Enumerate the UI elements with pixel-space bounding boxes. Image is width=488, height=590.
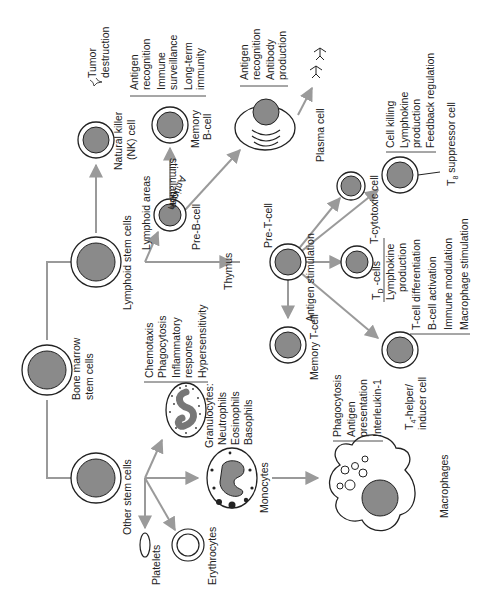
- label-pre-t: Pre-T-cell: [262, 203, 274, 248]
- label-monocytes: Monocytes: [258, 462, 270, 513]
- platelet-cell: [140, 533, 150, 557]
- label-t4-2: inducer cell: [416, 377, 428, 430]
- fn-memb-2: recognition: [140, 38, 152, 90]
- label-nk-1: Natural killer: [112, 111, 124, 170]
- label-bone-marrow-2: stem cells: [83, 353, 95, 400]
- fn-memb-4: surveillance: [167, 34, 179, 90]
- fn-plasma-2: recognition: [250, 28, 262, 80]
- fn-plasma-4: production: [276, 31, 288, 80]
- macrophage-cell: [330, 435, 415, 531]
- fn-mac-2: Antigen: [345, 401, 357, 437]
- lymphoid-stem-cell: [71, 237, 121, 287]
- t-cytotoxic-cell: [337, 172, 365, 200]
- fn-nk-2: destruction: [99, 26, 111, 78]
- fn-memb-1: Antigen: [128, 54, 140, 90]
- arrow-to-antibodies: [298, 88, 312, 115]
- label-bone-marrow: Bone marrow: [70, 337, 82, 400]
- fn-gran-1: Chemotaxis: [143, 323, 155, 378]
- fn-memb-3: Immune: [155, 52, 167, 90]
- lineage-diagram: Bone marrow stem cells Lymphoid stem cel…: [0, 0, 488, 590]
- fn-gran-4: response: [182, 335, 194, 378]
- antibody-icons: [310, 48, 326, 78]
- label-t-cytotoxic: T-cytotoxic cell: [368, 175, 380, 244]
- fn-t4-4: Macrophage stimulation: [458, 218, 470, 330]
- label-memory-b-2: B-cell: [201, 114, 213, 140]
- fn-memb-5: Long-term: [182, 42, 194, 90]
- nk-cell: [78, 122, 114, 158]
- label-platelets: Platelets: [150, 545, 162, 585]
- label-pre-b: Pre-B-cell: [190, 204, 202, 250]
- label-memory-t: Memory T-cell: [308, 314, 320, 380]
- fn-t4-2: B-cell activation: [426, 256, 438, 330]
- fn-cyto-3: production: [410, 99, 422, 148]
- arrow-to-plasma: [185, 150, 240, 210]
- label-lymphoid-areas: Lymphoid areas: [140, 176, 152, 250]
- arrow-to-granulocyte: [145, 440, 162, 478]
- label-granulocytes: Granulocytes:: [203, 383, 215, 448]
- plasma-cell: [235, 99, 295, 150]
- fn-gran-5: Hypersensitivity: [196, 304, 208, 378]
- label-memory-b-1: Memory: [189, 109, 201, 148]
- label-macrophages: Macrophages: [438, 454, 450, 518]
- fn-mac-4: Interleukin-1: [371, 379, 383, 437]
- arrow-to-erythrocytes: [145, 478, 175, 530]
- t4-cell: [382, 332, 418, 368]
- label-basophils: Basophils: [242, 399, 254, 445]
- bone-marrow-cell: [22, 345, 72, 395]
- label-td-cells: TD -cells: [370, 261, 384, 300]
- label-eosinophils: Eosinophils: [229, 391, 241, 445]
- label-other-stem: Other stem cells: [121, 459, 133, 535]
- label-nk-2: (NK) cell: [125, 120, 137, 160]
- fn-cyto-4: Feedback regulation: [424, 53, 436, 148]
- fn-memb-6: immunity: [194, 47, 206, 90]
- fn-gran-2: Phagocytosis: [156, 316, 168, 378]
- memory-t-cell: [270, 327, 306, 363]
- label-lymphoid-stem: Lymphoid stem cells: [121, 215, 133, 310]
- pre-t-cell: [270, 244, 306, 280]
- label-thymus: Thymus: [222, 253, 234, 290]
- cells: [22, 48, 440, 561]
- fn-mac-1: Phagocytosis: [331, 375, 343, 437]
- label-antigen-stim-t: Antigen stimulation: [304, 233, 316, 322]
- label-erythrocytes: Erythrocytes: [206, 527, 218, 585]
- t8-cell: [382, 157, 440, 193]
- label-t8: T8 suppressor cell: [445, 102, 459, 186]
- fn-td-2: production: [396, 243, 408, 292]
- label-t4-1: T4-helper/: [403, 384, 417, 430]
- fn-mac-3: presentation: [357, 379, 369, 437]
- erythrocyte-cell: [172, 529, 204, 561]
- fn-gran-3: Inflammatory: [170, 317, 182, 378]
- monocyte-cell: [207, 448, 257, 509]
- fn-plasma-1: Antigen: [238, 44, 250, 80]
- fn-td-1: Lymphokine: [384, 244, 396, 300]
- memory-b-cell: [152, 107, 188, 143]
- other-stem-cell: [71, 453, 121, 503]
- fn-cyto-2: Lymphokine: [398, 92, 410, 148]
- label-neutrophils: Neutrophils: [216, 392, 228, 445]
- fn-cyto-1: Cell killing: [384, 101, 396, 148]
- fn-t4-1: T-cell differentiation: [410, 239, 422, 330]
- fn-plasma-3: Antibody: [264, 38, 276, 80]
- fn-nk-1: Tumor: [86, 48, 98, 78]
- td-cell: [341, 246, 373, 278]
- fn-t4-3: Immune modulation: [442, 238, 454, 330]
- label-plasma: Plasma cell: [314, 108, 326, 162]
- granulocyte-cell: [166, 383, 206, 437]
